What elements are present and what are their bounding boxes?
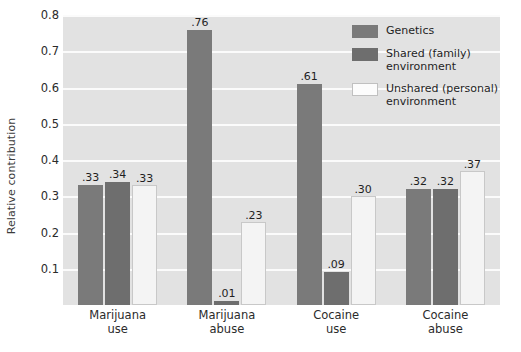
- bar[interactable]: .34: [105, 182, 130, 305]
- bar-value-label: .33: [82, 171, 100, 184]
- x-axis-category-label: Cocaineuse: [282, 308, 391, 336]
- legend-label-line: environment: [386, 60, 471, 73]
- legend-item[interactable]: Genetics: [352, 24, 517, 38]
- x-axis-label-line: Cocaine: [391, 308, 500, 322]
- bar[interactable]: .32: [433, 189, 458, 305]
- bar-value-label: .23: [245, 209, 263, 222]
- bar[interactable]: .30: [351, 196, 376, 305]
- y-axis-tick-label: 0.2: [41, 226, 59, 240]
- legend-swatch-unshared: [352, 83, 378, 96]
- y-axis-tick-label: 0.1: [41, 262, 59, 276]
- bar[interactable]: .33: [78, 185, 103, 305]
- y-axis-tick-label: 0.5: [41, 117, 59, 131]
- bar-slot: .76: [187, 15, 212, 305]
- bar-slot: .01: [214, 15, 239, 305]
- bar[interactable]: .61: [297, 84, 322, 305]
- x-axis-label-line: use: [63, 322, 172, 336]
- x-axis-label-line: abuse: [391, 322, 500, 336]
- bar[interactable]: .01: [214, 301, 239, 305]
- x-axis-label-line: Marijuana: [63, 308, 172, 322]
- bar-value-label: .61: [300, 70, 318, 83]
- legend-swatch-genetics: [352, 25, 378, 38]
- legend-item[interactable]: Shared (family)environment: [352, 47, 517, 73]
- bar-chart: Relative contribution 0.80.70.60.50.40.3…: [0, 0, 521, 352]
- y-axis-tick-labels: 0.80.70.60.50.40.30.20.1: [26, 15, 59, 305]
- bar[interactable]: .37: [460, 171, 485, 305]
- x-axis-category-labels: MarijuanauseMarijuanaabuseCocaineuseCoca…: [63, 308, 500, 336]
- bar-value-label: .37: [464, 158, 482, 171]
- y-axis-tick-label: 0.8: [41, 8, 59, 22]
- bar-value-label: .33: [136, 172, 154, 185]
- bar-slot: .33: [132, 15, 157, 305]
- bar-slot: .33: [78, 15, 103, 305]
- bar-group: .76.01.23: [172, 15, 281, 305]
- y-axis-tick-label: 0.6: [41, 81, 59, 95]
- legend-label-line: Unshared (personal): [386, 82, 498, 95]
- bar-group: .33.34.33: [63, 15, 172, 305]
- x-axis-category-label: Cocaineabuse: [391, 308, 500, 336]
- legend-label: Unshared (personal)environment: [386, 82, 498, 108]
- legend-label-line: Shared (family): [386, 47, 471, 60]
- x-axis-label-line: Marijuana: [172, 308, 281, 322]
- y-axis-tick-label: 0.4: [41, 153, 59, 167]
- bar-slot: .34: [105, 15, 130, 305]
- bar-value-label: .76: [191, 16, 209, 29]
- bar-value-label: .32: [410, 175, 428, 188]
- x-axis-category-label: Marijuanaabuse: [172, 308, 281, 336]
- x-axis-label-line: use: [282, 322, 391, 336]
- bar[interactable]: .33: [132, 185, 157, 305]
- bar-value-label: .09: [327, 258, 345, 271]
- bar[interactable]: .09: [324, 272, 349, 305]
- legend: GeneticsShared (family)environmentUnshar…: [352, 24, 517, 117]
- legend-label: Genetics: [386, 24, 434, 37]
- bar-slot: .23: [241, 15, 266, 305]
- bar-value-label: .01: [218, 287, 236, 300]
- legend-label-line: Genetics: [386, 24, 434, 37]
- bar-value-label: .30: [354, 183, 372, 196]
- x-axis-label-line: abuse: [172, 322, 281, 336]
- y-axis-tick-label: 0.3: [41, 189, 59, 203]
- bar[interactable]: .32: [406, 189, 431, 305]
- bar-value-label: .34: [109, 168, 127, 181]
- x-axis-label-line: Cocaine: [282, 308, 391, 322]
- bar[interactable]: .23: [241, 222, 266, 305]
- x-axis-category-label: Marijuanause: [63, 308, 172, 336]
- bar[interactable]: .76: [187, 30, 212, 306]
- legend-label-line: environment: [386, 95, 498, 108]
- y-axis-title: Relative contribution: [0, 0, 22, 352]
- bar-value-label: .32: [437, 175, 455, 188]
- legend-label: Shared (family)environment: [386, 47, 471, 73]
- legend-swatch-shared: [352, 48, 378, 61]
- bar-slot: .61: [297, 15, 322, 305]
- legend-item[interactable]: Unshared (personal)environment: [352, 82, 517, 108]
- bar-slot: .09: [324, 15, 349, 305]
- y-axis-tick-label: 0.7: [41, 44, 59, 58]
